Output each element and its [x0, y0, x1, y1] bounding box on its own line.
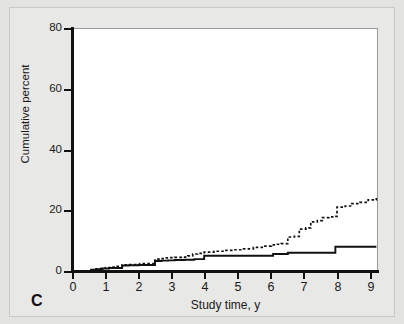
series-layer — [0, 0, 404, 324]
x-axis-title: Study time, y — [73, 298, 378, 312]
chart-figure: 80 60 40 20 0 0 1 2 3 4 5 6 — [0, 0, 404, 324]
figure-panel-c: 80 60 40 20 0 0 1 2 3 4 5 6 — [0, 0, 404, 324]
solid-curve — [73, 247, 376, 271]
y-axis-title: Cumulative percent — [19, 29, 31, 199]
dashed-curve — [73, 198, 376, 271]
panel-label: C — [31, 292, 43, 310]
